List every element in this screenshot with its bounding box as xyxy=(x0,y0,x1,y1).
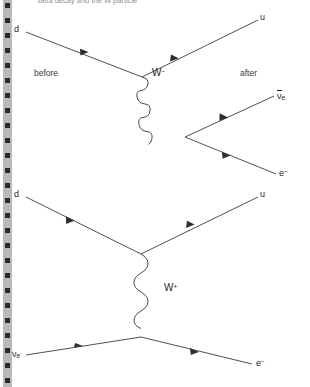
propagator-w-minus-wavy xyxy=(137,77,152,145)
label-w-plus-boson: W+ xyxy=(164,282,177,293)
electron-charge-1: − xyxy=(284,168,288,175)
arrowhead-antineutrino xyxy=(219,113,228,121)
label-d-quark-1: d xyxy=(14,24,19,34)
label-u-quark-2: u xyxy=(260,189,265,199)
label-stage-before: before xyxy=(34,68,58,78)
propagator-w-plus-wavy xyxy=(134,254,148,329)
label-antineutrino: νe xyxy=(277,91,285,101)
w-minus-charge: − xyxy=(161,68,165,75)
diagram-1-group xyxy=(26,20,276,174)
label-u-quark-1: u xyxy=(260,12,265,22)
label-electron-2: e− xyxy=(256,358,265,368)
diagram-2-group xyxy=(26,197,258,364)
line-antineutrino-out xyxy=(185,96,274,137)
line-u-quark-out-2 xyxy=(141,197,258,254)
arrowhead-u-quark-1 xyxy=(170,55,179,62)
arrowhead-u-quark-2 xyxy=(186,221,195,228)
antineutrino-symbol: ν xyxy=(277,91,282,101)
line-neutrino-in xyxy=(26,337,141,355)
line-electron-out-1 xyxy=(185,137,276,174)
w-plus-charge: + xyxy=(173,283,177,290)
label-electron-1: e− xyxy=(279,168,288,178)
arrowhead-electron-2 xyxy=(190,348,199,355)
label-neutrino-in: νe xyxy=(12,349,20,359)
feynman-diagram-page: beta decay and the W particle xyxy=(0,0,310,387)
arrowhead-d-quark-2 xyxy=(66,217,75,225)
label-w-minus-boson: W− xyxy=(152,67,165,78)
neutrino-subscript: e xyxy=(17,352,21,359)
line-d-quark-in-2 xyxy=(26,197,141,254)
electron-charge-2: − xyxy=(261,358,265,365)
line-electron-out-2 xyxy=(141,337,252,364)
label-stage-after: after xyxy=(240,68,257,78)
antineutrino-subscript: e xyxy=(282,94,286,101)
label-d-quark-2: d xyxy=(14,189,19,199)
arrowhead-electron-1 xyxy=(222,152,230,159)
